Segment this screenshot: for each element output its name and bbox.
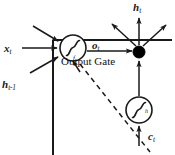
label-activation-gate: f bbox=[73, 55, 75, 62]
label-input-x: xt bbox=[4, 43, 11, 55]
label-gate-output-subscript: t bbox=[98, 44, 100, 53]
cell-activation-sigmoid-node bbox=[126, 97, 152, 123]
label-gate-output: ot bbox=[92, 40, 99, 52]
label-cell-state-subscript: t bbox=[153, 135, 155, 144]
label-input-x-subscript: t bbox=[10, 47, 12, 56]
arrow-fanout-left bbox=[112, 24, 136, 46]
label-input-h-prev: ht-1 bbox=[2, 79, 16, 91]
label-cell-output-subscript: t bbox=[139, 6, 141, 15]
arrow-fanout-right bbox=[143, 25, 166, 46]
arrow-top-into-gate bbox=[33, 26, 58, 41]
label-output-gate-name: Output Gate bbox=[61, 56, 115, 67]
output-fanout-arrows bbox=[112, 18, 166, 46]
arrow-h-prev-into-gate bbox=[30, 57, 58, 73]
label-cell-output: ht bbox=[133, 2, 141, 14]
label-cell-state: ct bbox=[148, 131, 155, 143]
label-input-h-prev-subscript: t-1 bbox=[8, 83, 16, 92]
lstm-output-gate-diagram: xt ht-1 ot ht ct Output Gate f h bbox=[0, 0, 175, 155]
label-activation-cell: h bbox=[145, 108, 148, 114]
multiplication-node bbox=[133, 46, 145, 58]
